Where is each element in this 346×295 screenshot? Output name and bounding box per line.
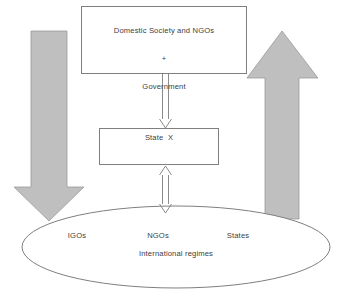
state-box-label: State X xyxy=(99,134,219,142)
top-box-line-1: Domestic Society and NGOs xyxy=(81,27,247,35)
international-regimes-ellipse xyxy=(22,206,330,288)
diagram-canvas: Domestic Society and NGOs + Government S… xyxy=(0,0,346,295)
regimes-member-igos: IGOs xyxy=(55,232,99,240)
top-box-label: Domestic Society and NGOs + Government xyxy=(81,12,247,111)
right-block-arrow xyxy=(247,31,318,219)
top-box-line-3: Government xyxy=(81,83,247,91)
top-box-line-2: + xyxy=(81,55,247,63)
regimes-member-states: States xyxy=(215,232,261,240)
international-regimes-label: International regimes xyxy=(116,250,236,258)
regimes-member-ngos: NGOs xyxy=(135,232,181,240)
left-block-arrow xyxy=(14,31,84,221)
